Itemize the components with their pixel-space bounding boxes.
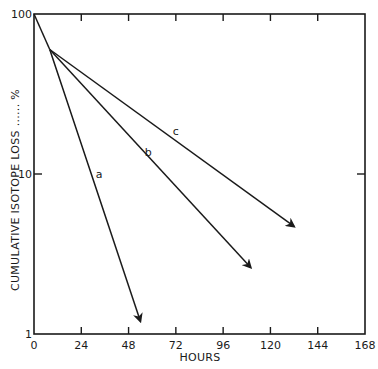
x-axis-ticks: 024487296120144168 (31, 14, 376, 352)
x-tick-label: 168 (355, 339, 376, 352)
y-tick-label: 1 (25, 328, 32, 341)
x-tick-label: 120 (260, 339, 281, 352)
x-tick-label: 48 (122, 339, 136, 352)
series-line-initial (34, 14, 50, 49)
series-line-a (50, 49, 141, 321)
series-label-a: a (96, 168, 103, 181)
y-axis-label: CUMULATIVE ISOTOPE LOSS ...... % (9, 89, 22, 291)
x-tick-label: 144 (307, 339, 328, 352)
series-label-c: c (173, 125, 179, 138)
x-tick-label: 24 (74, 339, 88, 352)
series-label-b: b (145, 146, 152, 159)
plot-frame (34, 14, 365, 334)
data-series (34, 14, 294, 321)
isotope-loss-chart: 024487296120144168 110100 abc HOURS CUMU… (0, 0, 378, 369)
x-axis-label: HOURS (179, 351, 220, 364)
y-axis-ticks: 110100 (11, 8, 365, 341)
y-tick-label: 100 (11, 8, 32, 21)
